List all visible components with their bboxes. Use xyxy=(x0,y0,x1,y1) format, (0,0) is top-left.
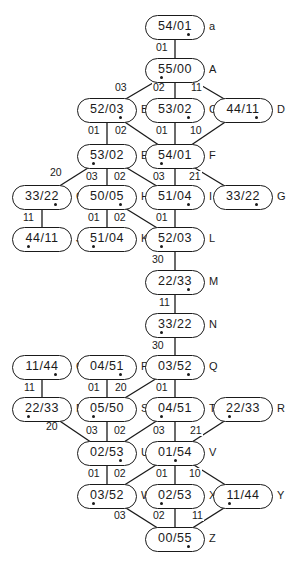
edge-label: 20 xyxy=(114,382,128,393)
edge-label: 01 xyxy=(155,125,169,136)
edge-label: 02 xyxy=(114,125,128,136)
edge-label: 02 xyxy=(152,510,166,521)
node-value: 51/04 xyxy=(90,232,124,245)
marker-dot-icon xyxy=(92,502,95,505)
node-tag: Q xyxy=(209,361,218,372)
node-tag: F xyxy=(209,150,216,161)
state-node-J: 44/11 xyxy=(12,227,72,252)
node-value: 52/03 xyxy=(158,232,192,245)
node-tag: R xyxy=(277,403,285,414)
marker-dot-icon xyxy=(27,415,30,418)
edge-label: 20 xyxy=(45,421,59,432)
edge-label: 01 xyxy=(87,468,101,479)
edge-label: 03 xyxy=(85,425,99,436)
node-value: 04/51 xyxy=(158,402,192,415)
node-tag: G xyxy=(277,191,286,202)
node-value: 02/53 xyxy=(90,446,124,459)
node-tag: Y xyxy=(277,490,284,501)
state-node-L: 52/03 xyxy=(145,227,205,252)
edge-label: 30 xyxy=(151,340,165,351)
state-node-E: 53/02 xyxy=(77,144,137,169)
edge-label: 03 xyxy=(152,171,166,182)
marker-dot-icon xyxy=(187,545,190,548)
edge-label: 11 xyxy=(190,82,203,93)
marker-dot-icon xyxy=(160,245,163,248)
node-value: 00/55 xyxy=(158,532,192,545)
node-value: 11/44 xyxy=(26,360,59,373)
edge-label: 01 xyxy=(155,382,169,393)
marker-dot-icon xyxy=(54,203,57,206)
marker-dot-icon xyxy=(92,162,95,165)
marker-dot-icon xyxy=(92,245,95,248)
node-value: 33/22 xyxy=(25,190,59,203)
edge-label: 03 xyxy=(114,82,128,93)
node-value: 02/53 xyxy=(158,489,192,502)
edge-label: 01 xyxy=(87,382,101,393)
state-node-T: 04/51 xyxy=(145,397,205,422)
node-tag: a xyxy=(209,21,215,32)
node-value: 01/54 xyxy=(158,446,192,459)
state-node-B: 52/03 xyxy=(77,98,137,123)
edge-label: 02 xyxy=(113,425,127,436)
edge-label: 01 xyxy=(87,212,101,223)
node-value: 05/50 xyxy=(90,402,124,415)
node-tag: Z xyxy=(209,533,216,544)
marker-dot-icon xyxy=(187,373,190,376)
state-node-P: 04/51 xyxy=(77,355,137,380)
state-node-H: 50/05 xyxy=(77,185,137,210)
node-tag: M xyxy=(209,276,218,287)
state-node-W: 03/52 xyxy=(77,484,137,509)
edge-label: 21 xyxy=(188,171,202,182)
node-value: 53/02 xyxy=(158,103,192,116)
marker-dot-icon xyxy=(119,203,122,206)
state-node-N: 33/22 xyxy=(145,313,205,338)
edge-label: 10 xyxy=(189,125,203,136)
node-value: 33/22 xyxy=(226,190,260,203)
state-node-Q: 03/52 xyxy=(145,355,205,380)
node-value: 44/11 xyxy=(227,103,260,116)
node-value: 54/01 xyxy=(158,149,192,162)
marker-dot-icon xyxy=(160,162,163,165)
state-node-A: 55/00 xyxy=(145,58,205,83)
edge-label: 02 xyxy=(113,171,127,182)
marker-dot-icon xyxy=(228,502,231,505)
marker-dot-icon xyxy=(160,331,163,334)
state-node-O: 11/44 xyxy=(12,355,72,380)
state-node-R2: 22/33 xyxy=(213,397,273,422)
marker-dot-icon xyxy=(92,415,95,418)
node-value: 22/33 xyxy=(158,275,192,288)
node-value: 44/11 xyxy=(26,232,59,245)
marker-dot-icon xyxy=(228,415,231,418)
edge-label: 10 xyxy=(188,468,202,479)
state-node-U: 02/53 xyxy=(77,441,137,466)
marker-dot-icon xyxy=(119,373,122,376)
marker-dot-icon xyxy=(54,373,57,376)
edge-label: 02 xyxy=(113,468,127,479)
edge-label: 11 xyxy=(23,382,36,393)
state-node-K: 51/04 xyxy=(77,227,137,252)
marker-dot-icon xyxy=(27,245,30,248)
marker-dot-icon xyxy=(255,116,258,119)
edge-label: 11 xyxy=(158,297,171,308)
state-node-I: 51/04 xyxy=(145,185,205,210)
edge-label: 02 xyxy=(152,82,166,93)
marker-dot-icon xyxy=(119,116,122,119)
node-value: 04/51 xyxy=(90,360,124,373)
marker-dot-icon xyxy=(119,459,122,462)
state-node-Z: 00/55 xyxy=(145,527,205,552)
edge-label: 21 xyxy=(189,425,203,436)
edge-label: 11 xyxy=(191,510,204,521)
state-node-F: 54/01 xyxy=(145,144,205,169)
edge-label: 03 xyxy=(85,171,99,182)
node-value: 22/33 xyxy=(25,402,59,415)
state-node-S: 05/50 xyxy=(77,397,137,422)
edge-label: 20 xyxy=(49,167,63,178)
node-value: 53/02 xyxy=(90,149,124,162)
state-node-a: 54/01 xyxy=(145,15,205,40)
edge-label: 01 xyxy=(155,42,169,53)
state-node-G1: 33/22 xyxy=(12,185,72,210)
marker-dot-icon xyxy=(187,288,190,291)
marker-dot-icon xyxy=(160,76,163,79)
marker-dot-icon xyxy=(160,502,163,505)
node-tag: N xyxy=(209,319,217,330)
